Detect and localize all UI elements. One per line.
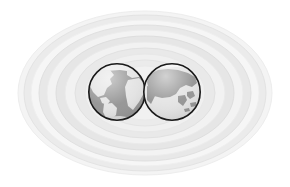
globes-halo-illustration [0,0,290,187]
graphic-canvas [0,0,290,187]
